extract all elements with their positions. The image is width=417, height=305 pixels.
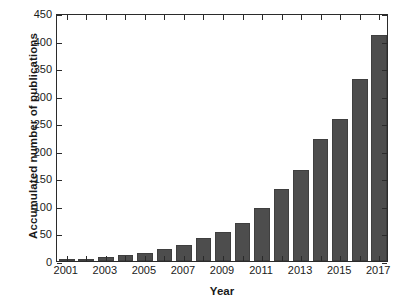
bar <box>313 139 329 261</box>
x-tick-mark <box>360 256 361 261</box>
x-tick-mark-top <box>164 15 165 20</box>
bar-chart: Accumulated number of publications 05010… <box>0 0 417 305</box>
x-tick-mark-top <box>86 15 87 20</box>
y-tick-mark <box>57 208 62 209</box>
y-tick-mark-right <box>382 153 387 154</box>
x-tick-mark-top <box>67 15 68 20</box>
x-tick-mark <box>321 256 322 261</box>
x-tick-mark-top <box>203 15 204 20</box>
x-tick-mark-top <box>262 15 263 20</box>
x-tick-mark-top <box>223 15 224 20</box>
x-tick-mark <box>184 256 185 261</box>
bar <box>371 35 387 262</box>
x-tick-mark <box>164 256 165 261</box>
x-tick-mark <box>262 256 263 261</box>
y-tick-mark <box>57 180 62 181</box>
x-tick-mark <box>203 256 204 261</box>
y-tick-mark-right <box>382 235 387 236</box>
x-tick-mark <box>86 256 87 261</box>
x-tick-mark-top <box>125 15 126 20</box>
x-tick-mark-top <box>340 15 341 20</box>
y-tick-mark-right <box>382 180 387 181</box>
x-tick-mark-top <box>184 15 185 20</box>
x-tick-label: 2017 <box>366 264 390 276</box>
x-tick-mark <box>282 256 283 261</box>
x-tick-mark <box>223 256 224 261</box>
x-tick-label: 2015 <box>327 264 351 276</box>
x-tick-mark <box>340 256 341 261</box>
x-tick-mark <box>106 256 107 261</box>
y-tick-mark <box>57 235 62 236</box>
y-tick-mark-right <box>382 125 387 126</box>
x-tick-mark <box>67 256 68 261</box>
x-tick-mark-top <box>282 15 283 20</box>
y-tick-label: 250 <box>10 118 52 130</box>
y-tick-mark <box>57 125 62 126</box>
x-tick-mark-top <box>301 15 302 20</box>
y-tick-label: 50 <box>10 228 52 240</box>
bar <box>332 119 348 261</box>
y-tick-mark-right <box>382 70 387 71</box>
x-tick-label: 2007 <box>171 264 195 276</box>
x-tick-mark <box>301 256 302 261</box>
y-tick-label: 150 <box>10 173 52 185</box>
x-tick-mark <box>125 256 126 261</box>
x-axis-title: Year <box>56 285 388 297</box>
y-tick-mark-right <box>382 208 387 209</box>
x-tick-mark <box>243 256 244 261</box>
y-tick-mark <box>57 43 62 44</box>
y-tick-label: 400 <box>10 36 52 48</box>
x-tick-mark <box>145 256 146 261</box>
y-tick-mark-right <box>382 43 387 44</box>
x-tick-mark-top <box>360 15 361 20</box>
bar-series <box>57 15 387 261</box>
x-tick-mark <box>379 256 380 261</box>
bar <box>352 79 368 261</box>
y-tick-label: 300 <box>10 91 52 103</box>
x-tick-mark-top <box>145 15 146 20</box>
y-tick-label: 350 <box>10 63 52 75</box>
x-tick-label: 2009 <box>210 264 234 276</box>
bar <box>254 208 270 261</box>
y-tick-label: 0 <box>10 256 52 268</box>
bar <box>274 189 290 261</box>
x-tick-mark-top <box>243 15 244 20</box>
y-tick-mark <box>57 70 62 71</box>
y-tick-mark-right <box>382 15 387 16</box>
y-tick-label: 100 <box>10 201 52 213</box>
x-tick-label: 2005 <box>132 264 156 276</box>
bar <box>293 170 309 261</box>
y-tick-label: 450 <box>10 8 52 20</box>
y-tick-mark <box>57 15 62 16</box>
x-tick-label: 2011 <box>249 264 273 276</box>
x-tick-label: 2013 <box>288 264 312 276</box>
x-tick-label: 2001 <box>54 264 78 276</box>
y-tick-mark-right <box>382 98 387 99</box>
plot-area <box>56 14 388 262</box>
y-axis-tick-labels: 050100150200250300350400450 <box>10 14 52 262</box>
y-tick-mark <box>57 153 62 154</box>
x-tick-mark-top <box>321 15 322 20</box>
x-tick-mark-top <box>379 15 380 20</box>
y-tick-mark <box>57 98 62 99</box>
y-tick-label: 200 <box>10 146 52 158</box>
x-tick-mark-top <box>106 15 107 20</box>
x-axis-tick-labels: 200120032005200720092011201320152017 <box>56 264 388 282</box>
x-tick-label: 2003 <box>93 264 117 276</box>
